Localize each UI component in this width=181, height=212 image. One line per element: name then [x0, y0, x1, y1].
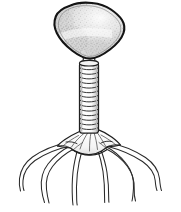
collar-ring-bottom	[79, 60, 98, 66]
phage-figure: Bacteriophage	[0, 0, 181, 212]
bacteriophage-illustration	[0, 0, 181, 212]
tail-sheath-group	[80, 63, 99, 133]
